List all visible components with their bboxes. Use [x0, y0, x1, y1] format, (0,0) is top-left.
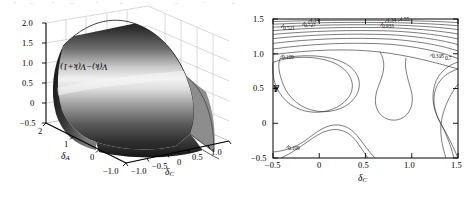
deltaA-axis-label: δA — [61, 152, 70, 162]
figure-root: 2.0 1.5 1.0 0.5 0 −0.5 2 1 0 −1.0 −1.0 −… — [0, 0, 473, 207]
contour-label-0727: 0.727 — [304, 23, 316, 29]
deltaC-tick-0: 0 — [177, 158, 181, 167]
contour-label-0109-lower: 0.109 — [288, 146, 300, 152]
deltaA-tick-1: 1 — [64, 140, 68, 149]
contour-y-tick-1.5: 1.5 — [253, 15, 264, 24]
contour-label-155: 1.55 — [400, 17, 409, 23]
surface-mesh — [52, 10, 219, 160]
contour-label-114: 1.14 — [310, 18, 319, 24]
contour-label-0933: 0.933 — [382, 24, 394, 30]
z-tick-2: 2.0 — [22, 19, 33, 28]
contour-label-07: 0.7 — [445, 56, 451, 62]
contour-axes-frame — [273, 19, 458, 158]
z-tick-neg0.5: −0.5 — [20, 119, 35, 128]
contour-y-tick-0: 0 — [262, 119, 266, 128]
z-tick-0: 0 — [30, 99, 34, 108]
deltaC-axis-label: δC — [165, 168, 174, 178]
surface-plot-panel: 2.0 1.5 1.0 0.5 0 −0.5 2 1 0 −1.0 −1.0 −… — [0, 0, 240, 207]
contour-y-tick-1: 1.0 — [253, 50, 264, 59]
contour-label-0315: 0.315 — [432, 54, 444, 60]
deltaA-tick-2: 2 — [38, 127, 42, 136]
contour-y-tick-neg0.5: −0.5 — [251, 154, 266, 163]
deltaC-tick-1: 1.0 — [211, 148, 222, 157]
contour-y-axis-label: δA — [252, 72, 266, 98]
z-axis-ticks — [42, 23, 46, 123]
surface-plot-canvas — [0, 0, 240, 207]
z-tick-1.5: 1.5 — [22, 39, 33, 48]
z-axis-label-text: V(k)−V(k+1) — [60, 62, 108, 72]
contour-x-axis-label: δC — [358, 174, 367, 184]
contour-x-tick-neg0.5: −0.5 — [265, 161, 280, 170]
contour-x-tick-1.5: 1.5 — [451, 161, 462, 170]
contour-label-134: 1.34 — [387, 18, 396, 24]
contour-plot-panel: −0.5 0 0.5 1.0 1.5 1.5 1.0 0.5 0 −0.5 0.… — [240, 0, 473, 207]
z-tick-0.5: 0.5 — [22, 79, 33, 88]
deltaC-tick-neg1: −1.0 — [131, 167, 146, 176]
contour-x-tick-0.5: 0.5 — [358, 161, 369, 170]
contour-label-0109-upper: 0.109 — [282, 55, 294, 61]
contour-x-tick-0: 0 — [317, 161, 321, 170]
deltaA-tick-0: 0 — [90, 153, 94, 162]
deltaA-tick-neg1: −1.0 — [103, 167, 118, 176]
contour-plot-canvas — [240, 0, 473, 207]
contour-x-tick-1: 1.0 — [404, 161, 415, 170]
contour-label-0521: 0.521 — [283, 26, 295, 32]
deltaC-tick-0.5: 0.5 — [192, 153, 203, 162]
z-tick-1: 1.0 — [22, 59, 33, 68]
